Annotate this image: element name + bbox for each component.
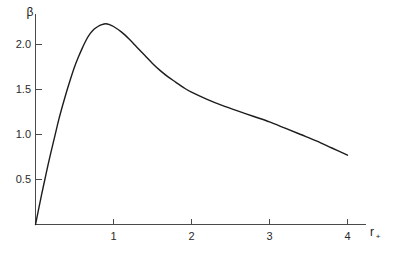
y-tick-label-1.0: 1.0	[16, 128, 31, 140]
y-tick-label-2.0: 2.0	[16, 38, 31, 50]
x-axis-title-subscript: +	[376, 232, 381, 241]
chart-figure: 2.0 1.5 1.0 0.5 1 2 3 4 β r +	[0, 0, 393, 254]
x-tick-label-3: 3	[266, 230, 272, 242]
x-tick-label-1: 1	[110, 230, 116, 242]
plot-area: 2.0 1.5 1.0 0.5 1 2 3 4 β r +	[0, 0, 393, 254]
y-tick-label-0.5: 0.5	[16, 173, 31, 185]
x-tick-label-4: 4	[344, 230, 350, 242]
beta-curve	[36, 24, 348, 225]
x-tick-label-2: 2	[188, 230, 194, 242]
x-axis-title: r	[370, 225, 374, 239]
y-axis-title: β	[27, 5, 34, 19]
y-tick-label-1.5: 1.5	[16, 83, 31, 95]
